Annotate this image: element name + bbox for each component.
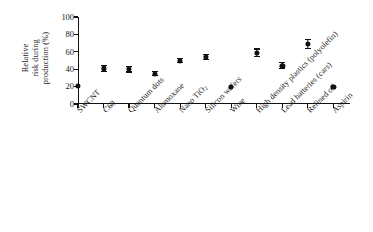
data-point <box>100 17 108 104</box>
y-axis-tick-labels: 020406080100 <box>50 0 74 232</box>
error-bar-cap-lower <box>279 68 285 69</box>
y-axis-title-text: Relative risk during production (%) <box>21 32 52 84</box>
error-bar-cap-lower <box>305 48 311 49</box>
error-bar-cap-lower <box>254 56 260 57</box>
y-axis-tick-label: 60 <box>52 48 74 57</box>
y-axis-tick-label: 100 <box>52 13 74 22</box>
data-point <box>74 17 82 104</box>
y-axis-tick-label: 20 <box>52 82 74 91</box>
y-axis-tick-label: 40 <box>52 65 74 74</box>
data-point-marker <box>75 83 80 88</box>
figure-canvas: Relative risk during production (%) 0204… <box>0 0 373 232</box>
data-point-marker <box>305 41 310 46</box>
y-axis-tick-label: 80 <box>52 30 74 39</box>
error-bar-cap-lower <box>203 59 209 60</box>
y-axis-title-line-2: risk during <box>31 32 41 84</box>
data-point-marker <box>254 50 259 55</box>
data-point <box>125 17 133 104</box>
data-point <box>253 17 261 104</box>
error-bar-cap-lower <box>101 71 107 72</box>
y-axis-tick-label: 0 <box>52 100 74 109</box>
error-bar-cap-upper <box>305 39 311 40</box>
y-axis-title-line-1: Relative <box>21 32 31 84</box>
error-bar-cap-lower <box>126 71 132 72</box>
